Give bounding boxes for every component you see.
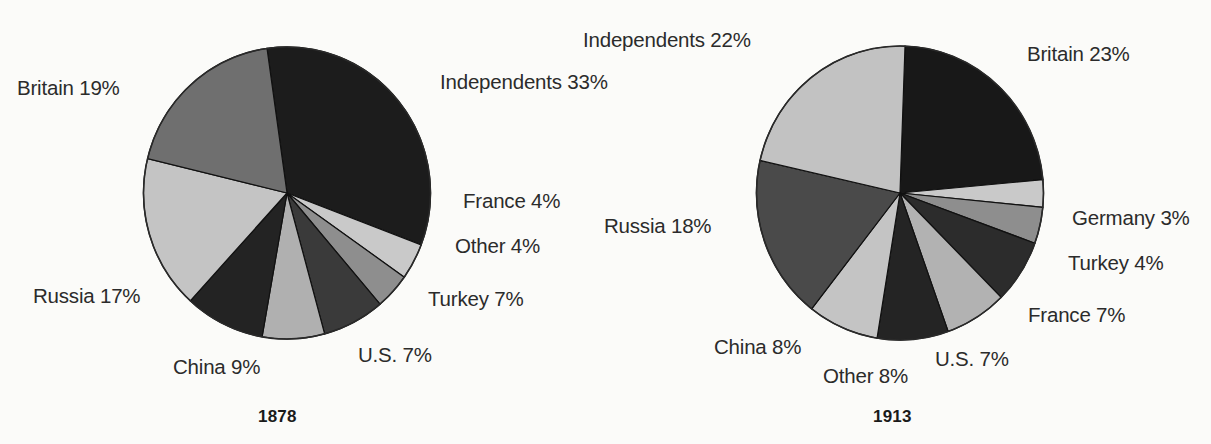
pie-chart-1878: Britain 19% Independents 33% France 4% O…	[0, 0, 605, 444]
slice-label-other: Other 4%	[455, 236, 540, 257]
pie-chart-1913: Independents 22% Britain 23% Germany 3% …	[606, 0, 1211, 444]
slice-label-china: China 8%	[714, 337, 801, 358]
slice-label-other: Other 8%	[823, 366, 908, 387]
slice-label-china: China 9%	[173, 357, 260, 378]
slice-label-independents: Independents 33%	[440, 72, 608, 93]
pie-chart-1878-graphic	[0, 0, 605, 444]
slice-label-france: France 7%	[1028, 305, 1125, 326]
pie-slice-britain	[900, 46, 1043, 193]
slice-label-us: U.S. 7%	[935, 349, 1009, 370]
slice-label-germany: Germany 3%	[1072, 208, 1190, 229]
slice-label-independents: Independents 22%	[583, 30, 751, 51]
slice-label-russia: Russia 18%	[604, 216, 711, 237]
slice-label-turkey: Turkey 7%	[428, 289, 523, 310]
slice-label-france: France 4%	[463, 191, 560, 212]
chart-year-label-1913: 1913	[873, 408, 912, 425]
chart-year-label-1878: 1878	[258, 408, 297, 425]
slice-label-us: U.S. 7%	[358, 345, 432, 366]
slice-label-turkey: Turkey 4%	[1068, 253, 1163, 274]
slice-label-britain: Britain 19%	[17, 78, 120, 99]
slice-label-russia: Russia 17%	[33, 286, 140, 307]
slice-label-britain: Britain 23%	[1027, 44, 1130, 65]
